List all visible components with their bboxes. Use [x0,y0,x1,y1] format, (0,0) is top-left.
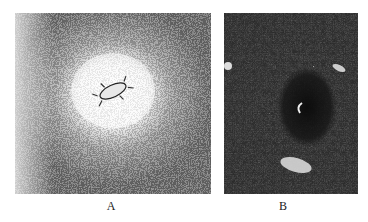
micrograph-a-image [15,13,211,194]
micrograph-b-image [224,13,358,194]
panel-label-a: A [101,199,121,214]
micrograph-panel-a [15,13,211,194]
micrograph-panel-b [224,13,358,194]
panel-label-b: B [273,199,293,214]
